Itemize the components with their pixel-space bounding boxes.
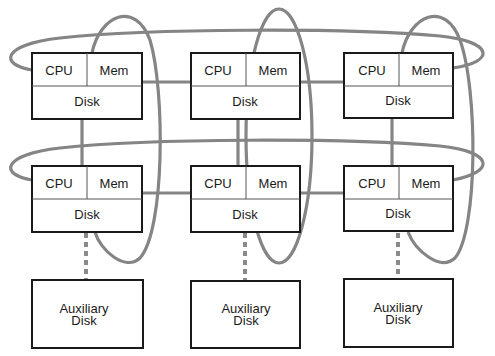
disk-label: Disk (385, 206, 411, 221)
aux-label-line2: Disk (233, 313, 259, 328)
mem-label: Mem (100, 176, 129, 191)
node-r2-c2: CPU Mem Disk (191, 166, 300, 232)
node-r1-c2: CPU Mem Disk (191, 53, 300, 119)
aux-label-line2: Disk (385, 312, 411, 327)
aux-disk-2: Auxiliary Disk (191, 281, 300, 348)
disk-label: Disk (74, 94, 100, 109)
disk-label: Disk (74, 207, 100, 222)
node-r1-c3: CPU Mem Disk (344, 53, 453, 118)
disk-label: Disk (232, 207, 258, 222)
cpu-label: CPU (204, 63, 231, 78)
disk-label: Disk (385, 93, 411, 108)
cluster-diagram: CPU Mem Disk CPU Mem Disk CPU Mem Disk C… (0, 0, 495, 356)
cpu-label: CPU (45, 176, 72, 191)
cpu-label: CPU (358, 63, 385, 78)
aux-disk-3: Auxiliary Disk (344, 279, 453, 347)
disk-label: Disk (232, 94, 258, 109)
mem-label: Mem (100, 63, 129, 78)
node-r2-c1: CPU Mem Disk (32, 166, 142, 232)
cpu-label: CPU (204, 176, 231, 191)
mem-label: Mem (412, 63, 441, 78)
mem-label: Mem (412, 176, 441, 191)
mem-label: Mem (259, 63, 288, 78)
cpu-label: CPU (358, 176, 385, 191)
node-r2-c3: CPU Mem Disk (344, 166, 453, 231)
node-r1-c1: CPU Mem Disk (32, 53, 142, 119)
aux-disk-1: Auxiliary Disk (32, 280, 143, 348)
cpu-label: CPU (45, 63, 72, 78)
mem-label: Mem (259, 176, 288, 191)
aux-label-line2: Disk (71, 313, 97, 328)
